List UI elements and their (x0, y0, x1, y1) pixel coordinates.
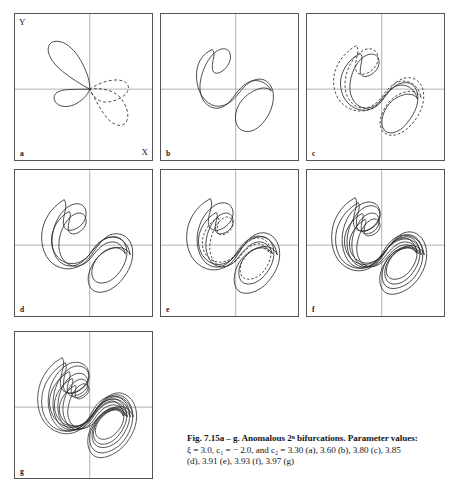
caption-figure-label: Fig. 7.15a – g. Anomalous 2ⁿ bifurcation… (187, 433, 418, 443)
figure-caption: Fig. 7.15a – g. Anomalous 2ⁿ bifurcation… (187, 433, 475, 468)
orbit-solid (341, 53, 418, 132)
panel-letter-f: f (312, 306, 315, 314)
panel-letter-d: d (20, 306, 24, 314)
panel-a-plot (15, 14, 152, 160)
phase-portrait-panel-b: b (160, 13, 299, 161)
phase-portrait-panel-c: c (306, 13, 445, 161)
orbit-solid-left-lobe (48, 41, 90, 106)
phase-portrait-panel-d: d (14, 169, 153, 317)
grid-lines (15, 14, 152, 160)
phase-portrait-panel-g: g (14, 331, 153, 479)
orbit-curves (42, 200, 133, 293)
panel-g-plot (15, 332, 152, 478)
panel-c-plot (307, 14, 444, 160)
orbit-strand-4 (349, 219, 417, 279)
phase-portrait-panel-f: f (306, 169, 445, 317)
panel-letter-e: e (166, 306, 169, 314)
figure-7-15: Y X a b c (0, 0, 475, 485)
panel-letter-a: a (20, 150, 24, 158)
orbit-curves (196, 49, 273, 132)
orbit-curves (187, 199, 280, 294)
orbit-main (196, 49, 273, 132)
orbit-dashed-right-lobe (90, 80, 129, 125)
panel-b-plot (161, 14, 298, 160)
orbit-curves (334, 46, 424, 136)
orbit-strand-outer (42, 200, 133, 293)
grid-lines (161, 14, 298, 160)
panel-letter-c: c (312, 150, 315, 158)
phase-portrait-panel-a: Y X a (14, 13, 153, 161)
grid-lines (307, 170, 444, 316)
orbit-curves (332, 198, 427, 295)
grid-lines (15, 170, 152, 316)
x-axis-label: X (142, 148, 149, 157)
panel-f-plot (307, 170, 444, 316)
orbit-curves (38, 358, 137, 458)
caption-line-3: (d), 3.91 (e), 3.93 (f), 3.97 (g) (187, 456, 475, 468)
caption-line-2: ξ = 3.0, c₁ = − 2.0, and c₂ = 3.30 (a), … (187, 445, 475, 457)
orbit-strand-4 (54, 378, 126, 444)
grid-lines (307, 14, 444, 160)
y-axis-label: Y (19, 18, 26, 27)
panel-letter-b: b (166, 150, 170, 158)
panel-d-plot (15, 170, 152, 316)
orbit-strand-outer (187, 199, 280, 294)
grid-lines (15, 332, 152, 478)
panel-e-plot (161, 170, 298, 316)
panel-letter-g: g (20, 468, 24, 476)
caption-line-1: Fig. 7.15a – g. Anomalous 2ⁿ bifurcation… (187, 433, 475, 445)
phase-portrait-panel-e: e (160, 169, 299, 317)
orbit-curves (48, 41, 128, 125)
